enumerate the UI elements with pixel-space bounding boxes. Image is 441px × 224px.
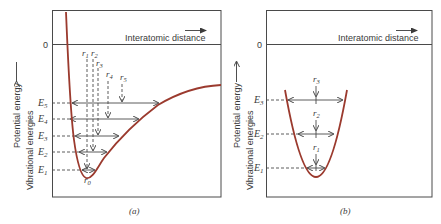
caption-b: (b) [340, 206, 351, 216]
y-axis-label-outer: Potential energy [232, 82, 242, 148]
position-labels: r3 r2 r1 [313, 74, 321, 153]
panel-b: Potential energy Vibrational energies 0 … [232, 11, 432, 217]
y-axis-label-inner: Vibrational energies [25, 110, 35, 190]
svg-text:E1: E1 [37, 164, 48, 177]
caption-a: (a) [129, 206, 140, 216]
x-axis-label: Interatomic distance [125, 33, 206, 43]
svg-text:E3: E3 [253, 94, 264, 107]
y-axis-label-outer: Potential energy [12, 82, 22, 148]
energy-levels [52, 103, 84, 170]
amplitude-arrows [71, 103, 158, 170]
svg-text:E5: E5 [37, 97, 48, 110]
potential-energy-axis-label: Potential energy [12, 62, 22, 148]
position-labels: r1 r2 r3 r4 r5 r0 [82, 48, 128, 186]
svg-text:r1: r1 [82, 48, 89, 59]
svg-text:E3: E3 [37, 130, 48, 143]
svg-text:r5: r5 [120, 72, 128, 83]
y-axis-label-inner: Vibrational energies [245, 110, 255, 190]
energy-level-labels: E3 E2 E1 [253, 94, 264, 175]
svg-text:r4: r4 [106, 69, 114, 80]
zero-label: 0 [257, 40, 262, 50]
svg-text:r1: r1 [313, 142, 320, 153]
svg-text:r3: r3 [96, 58, 104, 69]
x-axis-label: Interatomic distance [338, 33, 419, 43]
svg-text:E4: E4 [37, 113, 48, 126]
figure: Potential energy Vibrational energies 0 … [0, 0, 441, 224]
panel-a: Potential energy Vibrational energies 0 … [12, 11, 221, 217]
svg-text:r2: r2 [313, 108, 321, 119]
svg-text:E2: E2 [37, 146, 48, 159]
svg-text:r3: r3 [313, 74, 321, 85]
zero-label: 0 [43, 40, 48, 50]
energy-level-labels: E5 E4 E3 E2 E1 [37, 97, 48, 177]
